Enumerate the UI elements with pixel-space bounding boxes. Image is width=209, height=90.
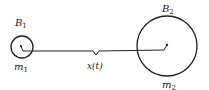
body-1-circle [11, 36, 33, 58]
body-2-label: B2 [161, 3, 174, 16]
two-body-diagram: B1 m1 B2 m2 x(t) [0, 0, 209, 90]
body-1-label: B1 [14, 17, 27, 30]
body-2-mass-label: m2 [162, 79, 176, 90]
separation-line [21, 45, 167, 55]
body-1-mass-label: m1 [14, 61, 28, 74]
separation-label: x(t) [87, 61, 103, 71]
